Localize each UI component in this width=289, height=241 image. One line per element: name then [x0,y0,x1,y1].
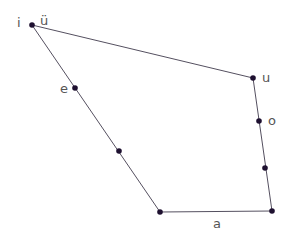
quadrilateral-outline [32,25,272,212]
point-e [72,85,78,91]
label-o: o [268,113,276,128]
point-o-lower [262,165,268,171]
point-o [256,118,262,124]
point-i [29,22,35,28]
point-a-left [157,209,163,215]
label-u: u [262,70,270,85]
point-a-right [269,208,275,214]
vowel-diagram: i ü e u o a [0,0,289,241]
label-e: e [60,81,68,96]
label-u-umlaut: ü [40,13,48,28]
point-u [250,75,256,81]
point-e-lower [116,148,122,154]
label-a: a [213,216,221,231]
label-i: i [17,15,21,30]
